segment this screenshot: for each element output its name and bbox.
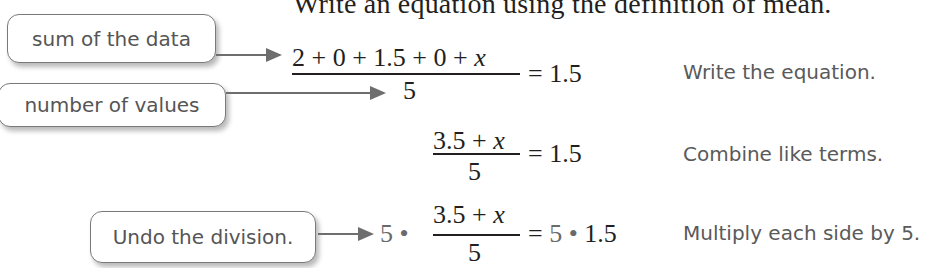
step3-lhs-multiplier: 5 • — [380, 219, 409, 249]
callout-undo-label: Undo the division. — [113, 225, 294, 249]
step3-numerator: 3.5 + x — [433, 200, 505, 230]
step3-equals: = — [528, 219, 543, 248]
arrow-to-multiply-icon — [318, 233, 372, 235]
step2-fraction-bar — [433, 153, 520, 155]
callout-undo-division: Undo the division. — [90, 211, 316, 263]
step2-note: Combine like terms. — [683, 142, 883, 166]
step1-rhs: = 1.5 — [528, 59, 582, 89]
arrow-to-denominator-icon — [226, 92, 384, 94]
step3-rhs-value: 1.5 — [584, 219, 617, 248]
step2-variable: x — [493, 126, 505, 155]
step2-rhs: = 1.5 — [528, 139, 582, 169]
step3-denominator: 5 — [468, 238, 481, 268]
step1-numerator-terms: 2 + 0 + 1.5 + 0 + — [292, 43, 474, 72]
instruction-heading: Write an equation using the definition o… — [293, 0, 832, 20]
step1-denominator: 5 — [403, 76, 416, 106]
step1-note: Write the equation. — [683, 60, 876, 84]
arrow-to-numerator-icon — [216, 54, 280, 56]
callout-sum-of-data: sum of the data — [7, 14, 216, 63]
step3-variable: x — [493, 200, 505, 229]
callout-number-of-values: number of values — [0, 83, 226, 127]
callout-count-label: number of values — [24, 93, 199, 117]
step1-fraction-bar — [292, 73, 520, 75]
callout-sum-label: sum of the data — [32, 27, 191, 51]
step2-numerator-terms: 3.5 + — [433, 126, 493, 155]
step3-numerator-terms: 3.5 + — [433, 200, 493, 229]
step3-fraction-bar — [433, 234, 520, 236]
step1-variable: x — [474, 43, 486, 72]
step2-denominator: 5 — [468, 157, 481, 187]
step3-note: Multiply each side by 5. — [683, 221, 920, 245]
step2-numerator: 3.5 + x — [433, 126, 505, 156]
step1-numerator: 2 + 0 + 1.5 + 0 + x — [292, 43, 486, 73]
step3-rhs-multiplier: 5 • — [549, 219, 578, 248]
step3-rhs: = 5 • 1.5 — [528, 219, 617, 249]
